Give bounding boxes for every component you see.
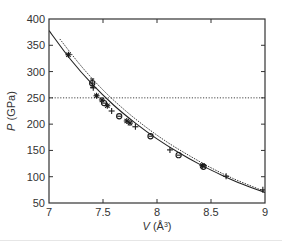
data-point-circle	[117, 114, 122, 119]
axes	[49, 19, 265, 203]
y-tick-label: 150	[27, 144, 45, 156]
y-tick-label: 200	[27, 118, 45, 130]
x-tick-label: 8.5	[203, 206, 218, 218]
bottom-divider	[0, 240, 282, 241]
data-point-asterisk	[65, 52, 71, 58]
data-point-cross	[167, 147, 173, 153]
x-axis-label: V (Å3)	[143, 220, 172, 232]
data-point-circle	[176, 153, 181, 158]
fit-curve-solid	[49, 31, 265, 193]
plot-area	[49, 31, 266, 193]
y-tick-label: 100	[27, 171, 45, 183]
data-point-asterisk	[127, 120, 133, 126]
y-axis-label: P (GPa)	[5, 91, 17, 131]
fit-curve-dotted	[60, 39, 265, 191]
y-tick-label: 250	[27, 92, 45, 104]
plot-frame	[49, 19, 265, 203]
y-tick-label: 50	[33, 197, 45, 209]
tick-labels: 77.588.5950100150200250300350400	[27, 13, 268, 218]
data-point-cross	[109, 108, 115, 114]
y-tick-label: 400	[27, 13, 45, 25]
data-point-asterisk	[104, 103, 110, 109]
x-tick-label: 8	[154, 206, 160, 218]
data-point-asterisk	[94, 93, 100, 99]
pressure-volume-chart: 77.588.5950100150200250300350400 V (Å3) …	[0, 0, 282, 243]
y-tick-label: 350	[27, 39, 45, 51]
x-tick-label: 7.5	[95, 206, 110, 218]
y-tick-label: 300	[27, 66, 45, 78]
x-tick-label: 7	[46, 206, 52, 218]
data-point-asterisk	[199, 163, 205, 169]
x-tick-label: 9	[262, 206, 268, 218]
